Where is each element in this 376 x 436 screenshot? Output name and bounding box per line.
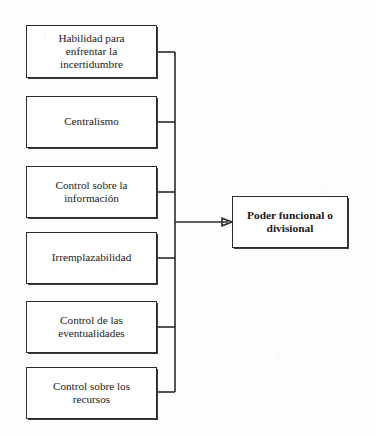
target-box-poder-funcional-divisional[interactable]: Poder funcional o divisional [232,196,348,248]
source-box-label: Control sobre los recursos [47,380,136,406]
source-box-control-informacion[interactable]: Control sobre la información [26,166,157,218]
source-box-control-eventualidades[interactable]: Control de las eventualidades [26,301,157,353]
source-box-label: Control sobre la información [49,179,133,205]
source-box-label: Control de las eventualidades [52,314,130,340]
source-box-habilidad-incertidumbre[interactable]: Habilidad para enfrentar la incertidumbr… [26,25,157,78]
source-box-label: Habilidad para enfrentar la incertidumbr… [52,32,130,72]
source-box-label: Centralismo [58,115,125,128]
source-box-label: Irremplazabilidad [46,251,138,264]
source-box-irremplazabilidad[interactable]: Irremplazabilidad [26,232,157,284]
diagram-canvas: Habilidad para enfrentar la incertidumbr… [0,0,376,436]
source-box-control-recursos[interactable]: Control sobre los recursos [26,367,157,419]
source-box-centralismo[interactable]: Centralismo [26,96,157,148]
target-box-label: Poder funcional o divisional [241,209,339,236]
